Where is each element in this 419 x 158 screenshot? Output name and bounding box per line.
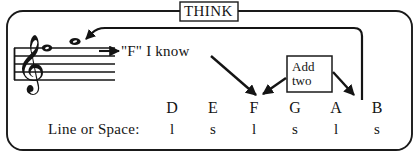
staff-note-1 [42,45,52,52]
scale-letter-a: A [326,100,346,116]
scale-letter-f: F [244,100,264,116]
think-label: THINK [184,4,233,19]
f-i-know-label: "F" I know [121,44,189,59]
arrow-addtwo-to-a [333,72,354,95]
staff-note-2 [69,38,80,45]
scale-letter-b: B [367,100,387,116]
arrow-fknow-to-f [211,56,256,95]
line-or-space-value-d: l [162,122,182,137]
line-or-space-value-g: s [285,122,305,137]
scale-letter-e: E [203,100,223,116]
add-two-line1: Add [292,60,314,73]
add-two-line2: two [292,74,312,87]
treble-clef-icon: 𝄞 [16,34,46,95]
line-or-space-value-b: s [367,122,387,137]
line-or-space-value-f: l [244,122,264,137]
line-or-space-label: Line or Space: [48,122,140,137]
scale-letter-d: D [162,100,182,116]
arrow-addtwo-to-f [263,78,286,94]
think-note-reading-diagram: 𝄞 THINK "F" I know Add two Line or Space… [0,0,419,158]
line-or-space-value-a: l [326,122,346,137]
line-or-space-value-e: s [203,122,223,137]
scale-letter-g: G [285,100,305,116]
